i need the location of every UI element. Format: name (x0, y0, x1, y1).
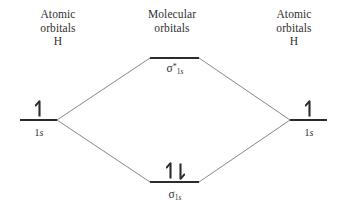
orbital-label-ao-left: 1s (18, 127, 60, 138)
orbital-label-mo-bonding: σ1s (152, 188, 198, 202)
electron-arrow-up-icon (35, 100, 44, 118)
correlation-line-right-to-antibonding (199, 58, 290, 120)
electrons-mo-antibonding (152, 38, 198, 56)
electron-arrow-up-icon (166, 162, 175, 180)
correlation-line-left-to-antibonding (57, 58, 150, 120)
correlation-line-left-to-bonding (57, 120, 150, 182)
electron-arrow-up-icon (305, 100, 314, 118)
orbital-subscript: 1s (177, 67, 184, 76)
orbital-label-ao-right: 1s (288, 127, 330, 138)
electrons-mo-bonding (152, 162, 198, 180)
electron-arrow-down-icon (176, 162, 185, 180)
mo-energy-diagram: Atomic orbitals H Molecular orbitals Ato… (0, 0, 344, 218)
correlation-line-right-to-bonding (199, 120, 290, 182)
orbital-designation: 1s (305, 127, 314, 138)
orbital-subscript: 1s (175, 193, 182, 202)
orbital-label-mo-antibonding: σ*1s (152, 62, 198, 76)
orbital-designation: 1s (35, 127, 44, 138)
electrons-ao-right (288, 100, 330, 118)
electrons-ao-left (18, 100, 60, 118)
